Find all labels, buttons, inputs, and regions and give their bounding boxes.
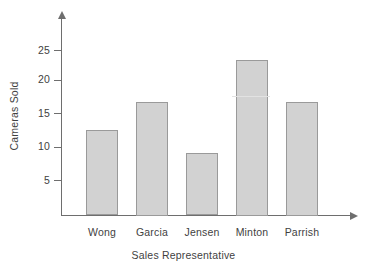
y-tick-label: 10 <box>16 141 50 152</box>
y-tick-mark <box>54 80 62 81</box>
y-tick-mark <box>54 113 62 114</box>
y-tick-label-wrap: 25 <box>10 45 50 56</box>
x-axis-title: Sales Representative <box>0 249 367 261</box>
x-tick-label-parrish: Parrish <box>272 226 332 238</box>
bar-chart: 5 10 15 20 25 Wong Garcia Jensen Minton … <box>0 0 367 275</box>
y-axis-line <box>61 18 62 216</box>
y-tick-label: 5 <box>16 175 50 186</box>
y-tick-mark <box>54 50 62 51</box>
bar-jensen[interactable] <box>186 153 218 216</box>
y-axis-arrow-icon <box>58 11 66 19</box>
bar-parrish[interactable] <box>286 102 318 216</box>
y-tick-mark <box>54 180 62 181</box>
bar-scan-seam <box>232 96 270 97</box>
y-tick-label: 20 <box>16 74 50 85</box>
y-tick-label-wrap: 5 <box>10 175 50 186</box>
y-axis-title: Cameras Sold <box>8 66 20 166</box>
y-tick-mark <box>54 147 62 148</box>
x-axis-arrow-icon <box>350 212 358 220</box>
y-tick-label: 25 <box>16 45 50 56</box>
bar-wong[interactable] <box>86 130 118 216</box>
bar-minton[interactable] <box>236 60 268 216</box>
bar-garcia[interactable] <box>136 102 168 216</box>
y-tick-label: 15 <box>16 108 50 119</box>
